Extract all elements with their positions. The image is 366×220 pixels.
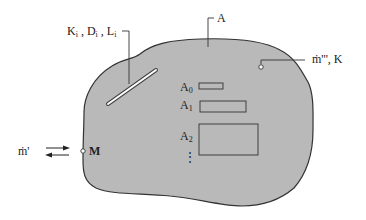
diagram: Ki , Di , Li A ṁ''', K A0 A1 A2 ⋮ ṁ' M	[0, 0, 366, 220]
subarea-a1-base: A	[180, 98, 189, 112]
crack-label-k-sub: i	[76, 30, 78, 39]
source-point	[259, 65, 263, 69]
source-label-k: K	[334, 52, 343, 66]
source-label: ṁ''', K	[312, 53, 343, 65]
subarea-a0-sub: 0	[189, 86, 193, 95]
boundary-point-label: M	[89, 145, 100, 157]
subarea-a0-base: A	[180, 80, 189, 94]
subarea-a1-sub: 1	[189, 104, 193, 113]
subarea-a2-base: A	[180, 129, 189, 143]
region-a-blob	[83, 39, 313, 206]
crack-label-sep1: ,	[81, 24, 84, 38]
crack-label-d-sub: i	[96, 30, 98, 39]
flux-arrow-out-head	[45, 153, 52, 158]
subarea-ellipsis: ⋮	[184, 151, 196, 163]
subarea-label-a0: A0	[180, 81, 193, 95]
subarea-a2-sub: 2	[189, 135, 193, 144]
crack-label: Ki , Di , Li	[67, 25, 116, 39]
subarea-label-a1: A1	[180, 99, 193, 113]
crack-label-k: K	[67, 24, 76, 38]
region-label: A	[217, 12, 226, 24]
flux-arrow-in-head	[63, 146, 70, 151]
boundary-point-m	[81, 149, 85, 153]
boundary-flux-label: ṁ'	[18, 145, 30, 157]
source-label-sep: ,	[328, 52, 331, 66]
source-label-main: ṁ'''	[312, 52, 328, 66]
crack-label-l-sub: i	[114, 30, 116, 39]
subarea-label-a2: A2	[180, 130, 193, 144]
crack-label-sep2: ,	[101, 24, 104, 38]
crack-label-d: D	[87, 24, 96, 38]
